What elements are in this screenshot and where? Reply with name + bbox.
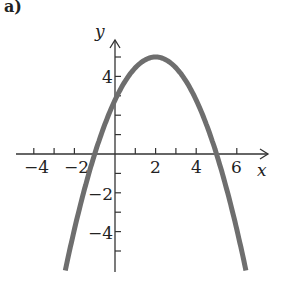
chart-svg: a) −4 −2 2 4 6 x 4 −2 −4 y [0,0,295,281]
y-tick-label: 4 [102,67,113,87]
y-tick-label: −2 [88,184,113,204]
y-tick-label: −4 [88,223,113,243]
y-axis-label: y [94,21,105,41]
chart-figure: a) −4 −2 2 4 6 x 4 −2 −4 y [0,0,295,281]
x-tick-label: −2 [64,157,89,177]
x-axis-label: x [257,160,267,180]
panel-label: a) [4,0,22,16]
x-tick-label: 6 [231,157,242,177]
x-ticks [34,148,237,154]
x-tick-label: 4 [191,157,202,177]
x-tick-label: −4 [24,157,49,177]
x-tick-label: 2 [150,157,161,177]
